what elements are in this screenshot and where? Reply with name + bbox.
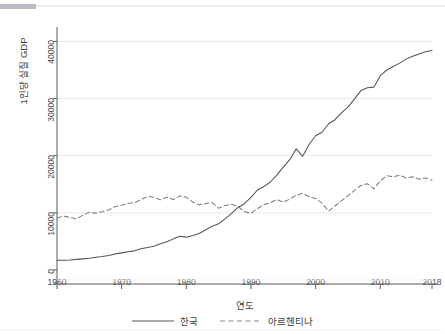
chart-page: 1인당 실질 GDP 010000200003000040000 1960197… (0, 0, 445, 334)
y-axis-title: 1인당 실질 GDP (16, 11, 30, 131)
legend-key-dashed-icon (220, 317, 262, 325)
series-line-argentina (57, 175, 432, 219)
legend-label-argentina: 아르헨티나 (268, 314, 313, 328)
legend-item-argentina[interactable]: 아르헨티나 (220, 314, 313, 328)
y-tick-label: 10000 (46, 212, 56, 252)
bottom-divider (2, 330, 443, 331)
chart-figure: 1인당 실질 GDP 010000200003000040000 1960197… (0, 9, 445, 334)
x-axis-title: 연도 (57, 298, 432, 312)
legend-label-korea: 한국 (180, 314, 198, 328)
y-tick-label: 20000 (46, 155, 56, 195)
chart-legend: 한국 아르헨티나 (0, 314, 445, 328)
legend-item-korea[interactable]: 한국 (132, 314, 198, 328)
y-tick-label: 30000 (46, 98, 56, 138)
y-tick-label: 40000 (46, 40, 56, 80)
legend-key-solid-icon (132, 317, 174, 325)
gridlines (57, 41, 432, 280)
plot-svg (57, 30, 432, 270)
y-tick-label: 0 (46, 269, 56, 309)
x-tick-label: 2018 (412, 277, 445, 287)
top-strip-light-segment (36, 5, 445, 7)
plot-area (57, 30, 432, 270)
